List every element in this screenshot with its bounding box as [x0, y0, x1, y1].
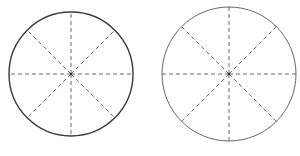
right-circle-center-point	[228, 73, 230, 75]
left-circle-sector-divider	[27, 74, 71, 118]
right-circle-sector-divider	[182, 74, 229, 121]
left-circle-diagram	[9, 12, 133, 136]
right-circle-sector-divider	[229, 74, 276, 121]
left-circle-sector-divider	[27, 30, 71, 74]
diagram-canvas	[0, 0, 300, 156]
right-circle-sector-divider	[182, 27, 229, 74]
right-circle-diagram	[162, 7, 296, 141]
left-circle-center-point	[70, 73, 72, 75]
left-circle-sector-divider	[71, 30, 115, 74]
right-circle-sector-divider	[229, 27, 276, 74]
left-circle-sector-divider	[71, 74, 115, 118]
